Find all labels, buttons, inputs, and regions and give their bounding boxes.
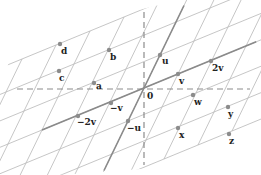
span-lines	[42, 6, 256, 171]
coordinate-axes	[17, 12, 250, 165]
lattice-line-u	[28, 17, 124, 175]
point-v-label: v	[178, 76, 185, 86]
point-z-label: z	[229, 136, 234, 146]
point-a-label: a	[96, 81, 102, 91]
lattice-line-u	[0, 59, 22, 175]
span-v-line	[42, 42, 256, 130]
lattice-canvas: 0uv2v−v−2v−uabcdwxyz	[0, 0, 261, 175]
point--2v-label: −2v	[77, 117, 97, 127]
lattice-diagram: 0uv2v−v−2v−uabcdwxyz	[0, 0, 261, 175]
lattice-line-v	[0, 0, 261, 106]
lattice-line-v	[0, 37, 261, 175]
lattice-line-u	[0, 31, 90, 175]
lattice-line-v	[0, 103, 261, 175]
point--v-label: −v	[110, 103, 124, 113]
point-b-label: b	[110, 52, 116, 62]
point-0-label: 0	[147, 91, 153, 101]
point-y-label: y	[227, 109, 234, 119]
point-x-label: x	[179, 130, 185, 140]
point-d-label: d	[61, 46, 68, 56]
point-2v-label: 2v	[212, 63, 224, 73]
point-c-label: c	[59, 73, 65, 83]
point-u-label: u	[162, 56, 169, 66]
point-w-label: w	[193, 97, 202, 107]
lattice-points: 0uv2v−v−2v−uabcdwxyz	[57, 42, 234, 146]
point--u-label: −u	[127, 123, 142, 133]
lattice-grid	[0, 0, 261, 175]
